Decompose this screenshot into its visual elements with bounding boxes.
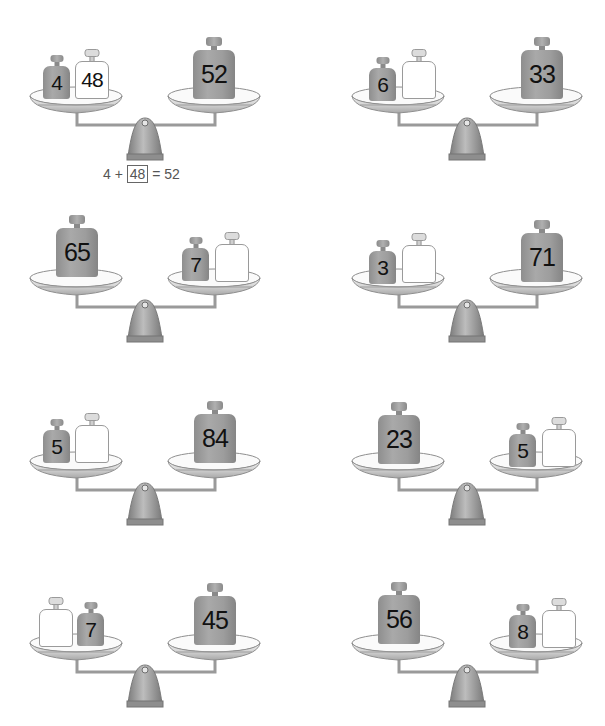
scale-problem-1: 4 48 52 (20, 30, 270, 180)
weight-value: 84 (194, 414, 236, 463)
weight-value: 7 (182, 248, 209, 281)
weight-left-gray: 4 (43, 55, 70, 99)
weight-value: 6 (369, 68, 396, 101)
weight-value: 3 (369, 251, 396, 284)
weight-value: 5 (43, 430, 70, 463)
weight-value: 71 (521, 233, 563, 282)
weight-value: 56 (378, 595, 420, 644)
equation-addend: 4 (103, 166, 111, 182)
answer-value (402, 61, 436, 99)
scale-problem-7: 7 45 (20, 577, 270, 726)
weight-left-gray: 56 (378, 582, 420, 644)
weight-knob (225, 232, 240, 240)
answer-weight[interactable] (402, 233, 436, 283)
weight-knob (552, 598, 567, 606)
answer-value: 48 (75, 61, 109, 99)
weight-knob (376, 240, 389, 247)
scale-problem-5: 5 84 (20, 395, 270, 545)
weight-knob (206, 37, 222, 46)
answer-weight[interactable] (542, 417, 576, 467)
weight-right-gray: 8 (509, 604, 536, 648)
answer-weight[interactable] (75, 413, 109, 463)
scale-problem-4: 3 71 (342, 212, 592, 362)
weight-knob (552, 417, 567, 425)
answer-weight[interactable]: 48 (75, 49, 109, 99)
answer-weight[interactable] (402, 49, 436, 99)
answer-value (39, 609, 73, 647)
scale-problem-2: 6 33 (342, 30, 592, 180)
weight-right-gray: 45 (194, 583, 236, 645)
weight-value: 65 (56, 228, 98, 277)
weight-knob (376, 57, 389, 64)
answer-weight[interactable] (39, 597, 73, 647)
weight-knob (85, 49, 100, 57)
weight-knob (412, 49, 427, 57)
weight-value: 52 (193, 50, 235, 99)
weight-knob (391, 582, 407, 591)
answer-value (542, 429, 576, 467)
answer-weight[interactable] (542, 598, 576, 648)
scale-problem-8: 56 8 (342, 577, 592, 726)
weight-left-gray: 23 (378, 402, 420, 464)
weight-value: 45 (194, 596, 236, 645)
answer-value (75, 425, 109, 463)
weight-value: 8 (509, 615, 536, 648)
weight-right-gray: 84 (194, 401, 236, 463)
weight-knob (412, 233, 427, 241)
equation-answer-box: 48 (127, 165, 149, 183)
answer-weight[interactable] (215, 232, 249, 282)
weight-left-gray: 7 (77, 602, 104, 646)
weight-knob (534, 220, 550, 229)
scale-problem-6: 23 5 (342, 395, 592, 545)
weight-left-gray: 3 (369, 240, 396, 284)
equals-sign: = (152, 166, 160, 182)
weight-value: 4 (43, 66, 70, 99)
answer-value (542, 610, 576, 648)
weight-right-gray: 71 (521, 220, 563, 282)
weight-left-gray: 5 (43, 419, 70, 463)
plus-sign: + (115, 166, 123, 182)
weight-knob (391, 402, 407, 411)
weight-knob (516, 604, 529, 611)
weight-right-gray: 52 (193, 37, 235, 99)
weight-value: 7 (77, 613, 104, 646)
weight-knob (516, 423, 529, 430)
weight-knob (189, 237, 202, 244)
weight-left-gray: 6 (369, 57, 396, 101)
weight-knob (207, 583, 223, 592)
equation-total: 52 (164, 166, 180, 182)
weight-left-gray: 65 (56, 215, 98, 277)
example-equation: 4 + 48 = 52 (103, 165, 180, 183)
weight-knob (84, 602, 97, 609)
answer-value (215, 244, 249, 282)
weight-knob (534, 37, 550, 46)
weight-knob (49, 597, 64, 605)
weight-knob (50, 419, 63, 426)
weight-knob (207, 401, 223, 410)
weight-knob (85, 413, 100, 421)
weight-right-gray: 5 (509, 423, 536, 467)
weight-right-gray: 33 (521, 37, 563, 99)
answer-value (402, 245, 436, 283)
weight-value: 33 (521, 50, 563, 99)
weight-knob (50, 55, 63, 62)
weight-value: 23 (378, 415, 420, 464)
weight-value: 5 (509, 434, 536, 467)
weight-right-gray: 7 (182, 237, 209, 281)
weight-knob (69, 215, 85, 224)
scale-problem-3: 65 7 (20, 212, 270, 362)
